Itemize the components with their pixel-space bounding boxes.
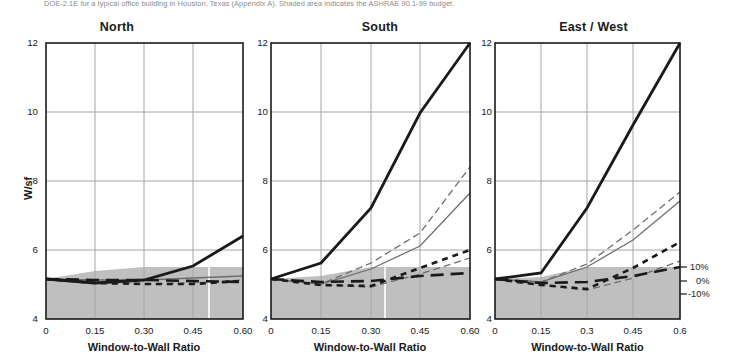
chart-panel-east-west: East / West 12 10 8 6 4 [470,0,733,363]
x-tick-045-east-west: 0.45 [618,325,648,336]
x-tick-03-east-west: 0.3 [572,325,602,336]
plot-area-south [250,0,490,363]
x-axis-label-south: Window-to-Wall Ratio [270,341,470,353]
legend-label-10pct: 10% [690,262,709,272]
x-tick-030-south: 0.30 [356,325,386,336]
plot-area-east-west [470,0,733,363]
x-tick-030-north: 0.30 [129,325,159,336]
x-tick-045-south: 0.45 [405,325,435,336]
x-tick-015-east-west: 0.15 [526,325,556,336]
x-axis-label-east-west: Window-to-Wall Ratio [490,341,685,353]
x-tick-015-north: 0.15 [80,325,110,336]
x-tick-06-east-west: 0.6 [665,325,695,336]
x-axis-label-north: Window-to-Wall Ratio [44,341,244,353]
x-tick-0-north: 0 [31,325,61,336]
x-tick-0-south: 0 [256,325,286,336]
chart-panel-north: North W/sf 12 10 8 6 4 0 0. [0,0,250,363]
x-tick-045-north: 0.45 [178,325,208,336]
chart-panel-south: South 12 10 8 6 4 0 0.15 0.30 0.45 0.60 [250,0,490,363]
legend-ticks-east-west [680,267,687,294]
x-tick-015-south: 0.15 [306,325,336,336]
x-tick-0-east-west: 0 [480,325,510,336]
legend-label-neg10pct: -10% [688,289,710,299]
legend-label-0pct: 0% [696,276,709,286]
plot-area-north [0,0,250,363]
